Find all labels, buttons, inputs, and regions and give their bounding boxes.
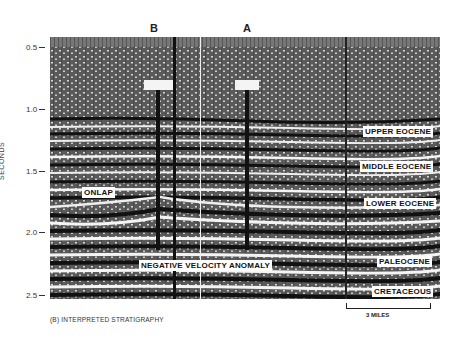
y-tick-2-0: 2.0 <box>26 229 45 237</box>
scale-bar-label: 3 MILES <box>366 312 389 318</box>
label-lower-eocene: LOWER EOCENE <box>364 198 436 209</box>
label-middle-eocene: MIDDLE EOCENE <box>360 161 433 172</box>
y-tick-0-5: 0.5 <box>26 44 45 52</box>
label-paleocene: PALEOCENE <box>377 256 432 267</box>
label-negative-velocity-anomaly: NEGATIVE VELOCITY ANOMALY <box>139 260 272 271</box>
scale-bar <box>346 303 431 309</box>
label-upper-eocene: UPPER EOCENE <box>363 126 433 137</box>
seismic-figure: UPPER EOCENE MIDDLE EOCENE LOWER EOCENE … <box>0 0 461 339</box>
well-label-a: A <box>243 22 251 34</box>
y-tick-1-0: 1.0 <box>26 106 45 114</box>
y-axis-label: SECONDS <box>0 142 5 180</box>
seismic-section: UPPER EOCENE MIDDLE EOCENE LOWER EOCENE … <box>50 37 440 299</box>
label-cretaceous: CRETACEOUS <box>372 286 433 297</box>
figure-caption: (B) INTERPRETED STRATIGRAPHY <box>50 316 164 323</box>
well-label-b: B <box>150 22 158 34</box>
label-onlap: ONLAP <box>82 187 115 198</box>
y-tick-2-5: 2.5 <box>26 292 45 300</box>
y-tick-1-5: 1.5 <box>26 168 45 176</box>
